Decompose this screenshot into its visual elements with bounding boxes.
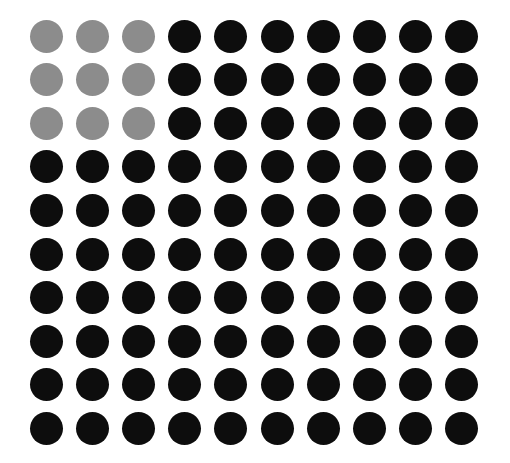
dot (30, 325, 63, 358)
dot (168, 238, 201, 271)
dot (399, 107, 432, 140)
dot (353, 412, 386, 445)
dot (122, 325, 155, 358)
dot (445, 63, 478, 96)
dot (76, 368, 109, 401)
dot (353, 150, 386, 183)
dot (445, 107, 478, 140)
dot (307, 194, 340, 227)
dot-highlighted (122, 20, 155, 53)
dot (445, 194, 478, 227)
dot (445, 238, 478, 271)
dot (353, 281, 386, 314)
dot (445, 368, 478, 401)
dot (168, 150, 201, 183)
dot (214, 281, 247, 314)
dot (168, 368, 201, 401)
dot (399, 281, 432, 314)
dot (399, 325, 432, 358)
dot (445, 325, 478, 358)
dot (168, 20, 201, 53)
dot (261, 281, 294, 314)
dot (30, 150, 63, 183)
dot (214, 194, 247, 227)
dot (76, 412, 109, 445)
dot (214, 325, 247, 358)
dot (399, 63, 432, 96)
dot (30, 194, 63, 227)
dot (445, 150, 478, 183)
dot (353, 238, 386, 271)
dot (399, 150, 432, 183)
dot (399, 412, 432, 445)
dot (261, 107, 294, 140)
dot-highlighted (122, 107, 155, 140)
dot (261, 194, 294, 227)
dot (353, 63, 386, 96)
dot (168, 325, 201, 358)
dot (30, 412, 63, 445)
dot (168, 412, 201, 445)
dot (353, 107, 386, 140)
dot (353, 20, 386, 53)
dot (214, 368, 247, 401)
dot (122, 150, 155, 183)
dot (122, 194, 155, 227)
dot (399, 20, 432, 53)
waffle-chart (0, 0, 510, 463)
dot (168, 194, 201, 227)
dot-highlighted (76, 20, 109, 53)
dot (261, 63, 294, 96)
dot (122, 281, 155, 314)
dot (261, 368, 294, 401)
dot-highlighted (76, 107, 109, 140)
dot (214, 238, 247, 271)
dot (399, 238, 432, 271)
dot (307, 63, 340, 96)
dot (214, 107, 247, 140)
dot (445, 20, 478, 53)
dot (214, 412, 247, 445)
dot (122, 238, 155, 271)
dot (307, 325, 340, 358)
dot (307, 20, 340, 53)
dot (168, 63, 201, 96)
dot (261, 150, 294, 183)
dot (30, 281, 63, 314)
dot (307, 238, 340, 271)
dot (261, 238, 294, 271)
dot-highlighted (76, 63, 109, 96)
dot (214, 20, 247, 53)
dot (399, 368, 432, 401)
dot (168, 281, 201, 314)
dot-highlighted (30, 107, 63, 140)
dot (399, 194, 432, 227)
dot (307, 412, 340, 445)
dot (261, 20, 294, 53)
dot-highlighted (30, 20, 63, 53)
dot (76, 194, 109, 227)
dot (214, 150, 247, 183)
dot (307, 150, 340, 183)
dot (168, 107, 201, 140)
dot (307, 107, 340, 140)
dot (76, 281, 109, 314)
dot (76, 150, 109, 183)
dot (353, 194, 386, 227)
dot (30, 238, 63, 271)
dot (445, 281, 478, 314)
dot (261, 325, 294, 358)
dot (307, 368, 340, 401)
dot (445, 412, 478, 445)
dot (353, 368, 386, 401)
dot (76, 325, 109, 358)
dot (261, 412, 294, 445)
dot (122, 368, 155, 401)
dot (76, 238, 109, 271)
dot (353, 325, 386, 358)
dot-highlighted (30, 63, 63, 96)
dot (214, 63, 247, 96)
dot-highlighted (122, 63, 155, 96)
dot (122, 412, 155, 445)
dot (307, 281, 340, 314)
